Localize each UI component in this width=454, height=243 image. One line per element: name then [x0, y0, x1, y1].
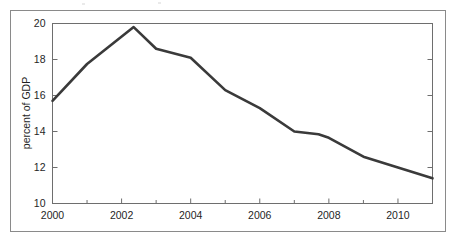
x-axis-tick-label: 2006 — [248, 209, 272, 221]
x-axis-tick-label: 2008 — [317, 209, 341, 221]
x-axis-tick-label: 2000 — [41, 209, 65, 221]
y-axis-tick-label: 10 — [34, 197, 46, 209]
chart-background — [0, 0, 454, 243]
y-axis-label: percent of GDP — [20, 77, 32, 149]
scan-artifact — [82, 3, 85, 5]
scan-artifact — [158, 2, 161, 4]
chart-figure: 101214161820200020022004200620082010 per… — [0, 0, 454, 243]
y-axis-tick-label: 16 — [34, 89, 46, 101]
y-axis-tick-label: 20 — [34, 17, 46, 29]
y-axis-tick-label: 18 — [34, 53, 46, 65]
y-axis-tick-label: 12 — [34, 161, 46, 173]
line-chart-svg: 101214161820200020022004200620082010 per… — [0, 0, 454, 243]
x-axis-tick-label: 2002 — [110, 209, 134, 221]
x-axis-tick-label: 2004 — [179, 209, 203, 221]
x-axis-tick-label: 2010 — [386, 209, 410, 221]
y-axis-tick-label: 14 — [34, 125, 46, 137]
